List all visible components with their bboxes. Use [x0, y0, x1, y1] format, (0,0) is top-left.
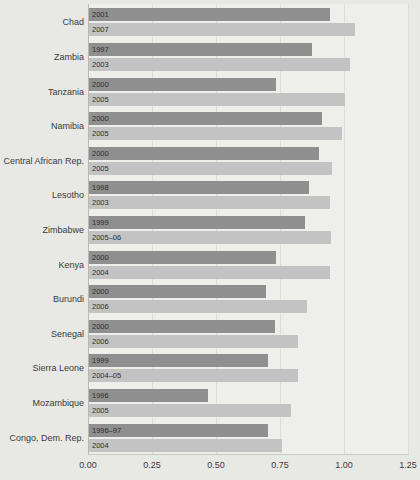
bar-group: Central African Rep.20002005	[0, 142, 420, 177]
bar-groups: Chad20012007Zambia19972003Tanzania200020…	[0, 0, 420, 454]
bar: 1998	[89, 181, 309, 194]
bar: 2004	[89, 266, 330, 279]
country-label: Sierra Leone	[32, 363, 84, 373]
bar-year-label: 2000	[92, 322, 109, 331]
bar-year-label: 2006	[92, 302, 109, 311]
bar-year-label: 2003	[92, 198, 109, 207]
bar-year-label: 2005	[92, 406, 109, 415]
bar-year-label: 1996	[92, 391, 109, 400]
x-tick-label: 0.00	[79, 460, 97, 470]
bar: 2005	[89, 162, 332, 175]
bar-group: Zambia19972003	[0, 39, 420, 74]
bar: 2000	[89, 147, 319, 160]
bar: 2000	[89, 320, 275, 333]
bar: 2005	[89, 127, 342, 140]
bar-group: Congo, Dem. Rep.1996–972004	[0, 419, 420, 454]
x-axis: 0.000.250.500.751.001.25	[0, 454, 420, 480]
bar-year-label: 1998	[92, 183, 109, 192]
bar: 2006	[89, 335, 298, 348]
country-label: Burundi	[53, 294, 84, 304]
bar-group: Namibia20002005	[0, 108, 420, 143]
bar: 2000	[89, 78, 276, 91]
bar: 2003	[89, 196, 330, 209]
country-label: Mozambique	[32, 398, 84, 408]
bar-group: Chad20012007	[0, 4, 420, 39]
bar-year-label: 1999	[92, 218, 109, 227]
bar: 2000	[89, 285, 266, 298]
bar-year-label: 2004–05	[92, 371, 121, 380]
bar-year-label: 2000	[92, 149, 109, 158]
bar: 1996–97	[89, 424, 268, 437]
bar-year-label: 2001	[92, 10, 109, 19]
bar: 2003	[89, 58, 350, 71]
country-label: Kenya	[58, 260, 84, 270]
country-label: Lesotho	[52, 190, 84, 200]
bar: 2000	[89, 251, 276, 264]
bar-year-label: 2005	[92, 95, 109, 104]
bar-chart: Chad20012007Zambia19972003Tanzania200020…	[0, 0, 420, 480]
x-tick-label: 0.50	[207, 460, 225, 470]
bar-year-label: 1997	[92, 45, 109, 54]
country-label: Zimbabwe	[42, 225, 84, 235]
bar-group: Lesotho19982003	[0, 177, 420, 212]
bar-group: Zimbabwe19992005–06	[0, 212, 420, 247]
x-tick-label: 1.25	[399, 460, 417, 470]
country-label: Zambia	[54, 52, 84, 62]
x-tick-label: 0.25	[143, 460, 161, 470]
bar-year-label: 2005–06	[92, 233, 121, 242]
bar-group: Senegal20002006	[0, 316, 420, 351]
bar: 2005	[89, 93, 345, 106]
bar-year-label: 2005	[92, 164, 109, 173]
bar: 2005–06	[89, 231, 331, 244]
x-tick-label: 0.75	[271, 460, 289, 470]
bar-year-label: 2003	[92, 60, 109, 69]
bar-group: Burundi20002006	[0, 281, 420, 316]
bar: 1996	[89, 389, 208, 402]
bar-year-label: 1999	[92, 356, 109, 365]
bar-year-label: 2000	[92, 80, 109, 89]
bar-year-label: 2004	[92, 268, 109, 277]
x-tick-label: 1.00	[335, 460, 353, 470]
country-label: Tanzania	[48, 87, 84, 97]
bar: 2007	[89, 23, 355, 36]
bar-year-label: 2005	[92, 129, 109, 138]
bar: 2004	[89, 439, 282, 452]
bar: 1999	[89, 216, 305, 229]
bar-year-label: 2000	[92, 114, 109, 123]
bar: 2006	[89, 300, 307, 313]
country-label: Congo, Dem. Rep.	[9, 433, 84, 443]
bar-year-label: 2006	[92, 337, 109, 346]
country-label: Senegal	[51, 329, 84, 339]
bar-group: Mozambique19962005	[0, 385, 420, 420]
bar-year-label: 2007	[92, 25, 109, 34]
country-label: Chad	[62, 17, 84, 27]
bar-year-label: 2004	[92, 441, 109, 450]
country-label: Namibia	[51, 121, 84, 131]
bar: 2005	[89, 404, 291, 417]
bar-year-label: 2000	[92, 287, 109, 296]
bar-group: Tanzania20002005	[0, 73, 420, 108]
bar: 2004–05	[89, 369, 298, 382]
bar-group: Kenya20002004	[0, 246, 420, 281]
bar: 2001	[89, 8, 330, 21]
bar-year-label: 1996–97	[92, 426, 121, 435]
country-label: Central African Rep.	[3, 156, 84, 166]
bar-group: Sierra Leone19992004–05	[0, 350, 420, 385]
bar: 2000	[89, 112, 322, 125]
bar: 1997	[89, 43, 312, 56]
bar: 1999	[89, 354, 268, 367]
bar-year-label: 2000	[92, 253, 109, 262]
